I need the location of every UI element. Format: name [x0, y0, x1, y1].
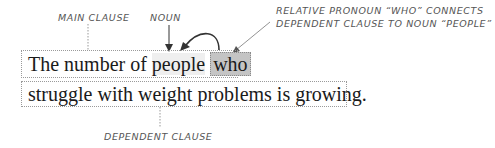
relative-pronoun-label-line1: RELATIVE PRONOUN “WHO” CONNECTS: [276, 5, 484, 17]
dependent-clause-sentence: struggle with weight problems is growing…: [28, 82, 367, 106]
main-clause-sentence: The number of people who: [28, 52, 251, 76]
relative-pronoun-label-line2: DEPENDENT CLAUSE TO NOUN “PEOPLE”: [276, 18, 492, 30]
noun-label: NOUN: [150, 12, 181, 24]
dependent-clause-label: DEPENDENT CLAUSE: [104, 131, 212, 143]
relative-pronoun-who: who: [210, 52, 250, 76]
noun-people: people: [152, 53, 205, 75]
sentence-prefix: The number of: [28, 53, 152, 75]
main-clause-label: MAIN CLAUSE: [58, 12, 130, 24]
